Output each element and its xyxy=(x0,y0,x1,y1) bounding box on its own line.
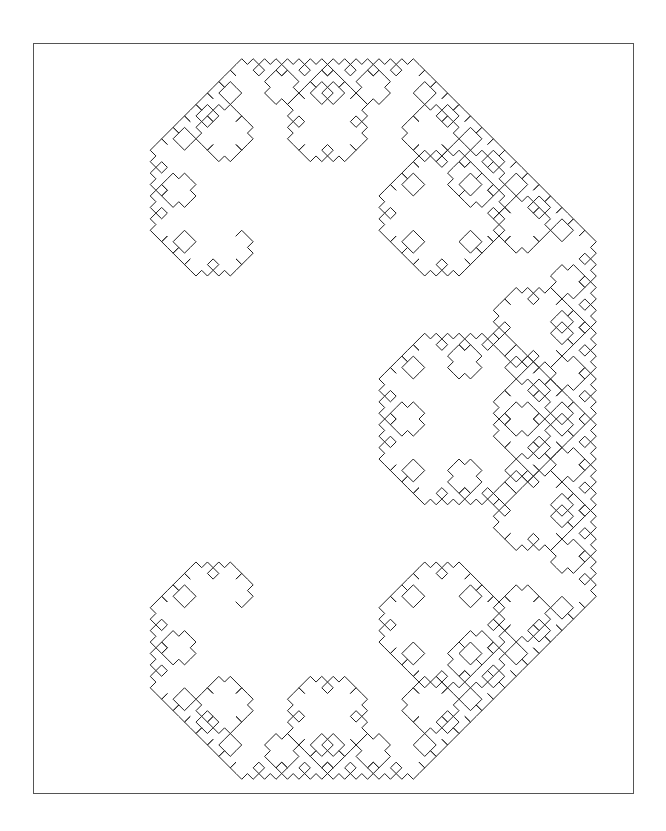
levy-c-curve-diagram xyxy=(0,0,666,831)
fractal-curve-path xyxy=(150,59,596,780)
